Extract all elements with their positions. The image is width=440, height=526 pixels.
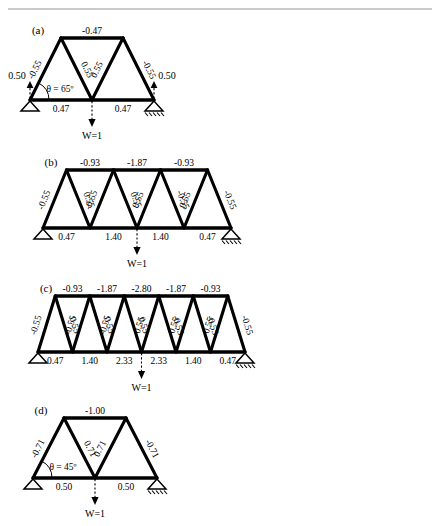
left-reaction-arrow bbox=[27, 81, 34, 88]
bottom-chord-force-label: 0.47 bbox=[53, 104, 70, 114]
bottom-chord-force-label: 1.40 bbox=[185, 356, 202, 366]
truss-figure: (a)-0.550.550.55-0.55-0.470.470.47W=10.5… bbox=[0, 0, 440, 526]
support-hatch bbox=[164, 491, 167, 495]
bottom-chord-force-label: 0.50 bbox=[56, 482, 73, 492]
support-pin-left bbox=[24, 479, 42, 489]
support-hatch bbox=[148, 491, 151, 495]
load-label: W=1 bbox=[127, 258, 147, 269]
panel-label-c: (c) bbox=[40, 282, 53, 295]
support-roller-right bbox=[148, 479, 166, 489]
diagonal-force-label: -0.55 bbox=[240, 314, 255, 336]
bottom-chord-force-label: 0.47 bbox=[199, 232, 216, 242]
support-hatch bbox=[145, 113, 148, 117]
top-chord-force-label: -0.93 bbox=[63, 284, 83, 294]
bottom-chord-force-label: 0.47 bbox=[58, 232, 75, 242]
bottom-chord-force-label: 1.40 bbox=[152, 232, 169, 242]
support-hatch bbox=[226, 241, 229, 245]
bottom-chord-force-label: 1.40 bbox=[105, 232, 122, 242]
angle-label-d: θ = 45º bbox=[49, 462, 76, 472]
truss-panel-c: (c)-0.550.55-0.550.55-0.550.550.55-0.550… bbox=[28, 282, 255, 393]
truss-panel-d: (d)-0.710.710.71-0.71-1.000.500.50W=1θ =… bbox=[24, 404, 167, 519]
support-hatch bbox=[156, 491, 159, 495]
bottom-chord-force-label: 0.47 bbox=[219, 356, 236, 366]
support-hatch bbox=[157, 113, 160, 117]
truss-panel-b: (b)-0.550.55-0.550.550.55-0.550.55-0.55-… bbox=[34, 156, 241, 269]
top-chord-force-label: -1.87 bbox=[166, 284, 186, 294]
support-hatch bbox=[230, 241, 233, 245]
truss-panel-a: (a)-0.550.550.55-0.55-0.470.470.47W=10.5… bbox=[8, 24, 176, 141]
support-hatch bbox=[153, 113, 156, 117]
top-chord-force-label: -0.47 bbox=[82, 26, 102, 36]
support-roller-right bbox=[222, 229, 240, 239]
support-hatch bbox=[252, 365, 255, 369]
load-label: W=1 bbox=[85, 508, 105, 519]
left-reaction-label: 0.50 bbox=[8, 70, 26, 81]
support-hatch bbox=[234, 241, 237, 245]
right-reaction-label: 0.50 bbox=[158, 70, 176, 81]
bottom-chord-force-label: 2.33 bbox=[116, 356, 133, 366]
support-roller-right bbox=[145, 101, 163, 111]
top-chord-force-label: -1.87 bbox=[97, 284, 117, 294]
support-hatch bbox=[161, 113, 164, 117]
support-pin-left bbox=[21, 101, 39, 111]
top-chord-force-label: -0.93 bbox=[174, 158, 194, 168]
diagonal-force-label: -0.55 bbox=[28, 314, 43, 336]
top-chord-force-label: -0.93 bbox=[201, 284, 221, 294]
top-chord-force-label: -2.80 bbox=[132, 284, 152, 294]
support-hatch bbox=[222, 241, 225, 245]
bottom-chord-force-label: 2.33 bbox=[150, 356, 167, 366]
load-label: W=1 bbox=[131, 382, 151, 393]
bottom-chord-force-label: 0.47 bbox=[115, 104, 132, 114]
support-hatch bbox=[236, 365, 239, 369]
angle-label-a: θ = 65º bbox=[46, 84, 73, 94]
load-arrowhead bbox=[133, 247, 140, 255]
support-hatch bbox=[248, 365, 251, 369]
support-hatch bbox=[160, 491, 163, 495]
top-chord-force-label: -1.87 bbox=[127, 158, 147, 168]
panels-root: (a)-0.550.550.55-0.55-0.470.470.47W=10.5… bbox=[8, 24, 255, 519]
support-hatch bbox=[149, 113, 152, 117]
bottom-chord-force-label: 0.47 bbox=[47, 356, 64, 366]
panel-label-a: (a) bbox=[32, 24, 45, 37]
support-hatch bbox=[244, 365, 247, 369]
support-hatch bbox=[240, 365, 243, 369]
load-arrowhead bbox=[88, 119, 95, 127]
right-reaction-arrow bbox=[151, 81, 158, 88]
support-roller-right bbox=[236, 353, 254, 363]
top-chord-force-label: -0.93 bbox=[80, 158, 100, 168]
bottom-chord-force-label: 0.50 bbox=[118, 482, 135, 492]
panel-label-d: (d) bbox=[35, 404, 48, 417]
load-arrowhead bbox=[138, 371, 145, 379]
panel-label-b: (b) bbox=[45, 156, 58, 169]
support-hatch bbox=[238, 241, 241, 245]
support-hatch bbox=[152, 491, 155, 495]
load-label: W=1 bbox=[82, 130, 102, 141]
bottom-chord-force-label: 1.40 bbox=[81, 356, 98, 366]
support-pin-left bbox=[29, 353, 47, 363]
top-chord-force-label: -1.00 bbox=[85, 406, 105, 416]
load-arrowhead bbox=[91, 497, 98, 505]
support-pin-left bbox=[34, 229, 52, 239]
